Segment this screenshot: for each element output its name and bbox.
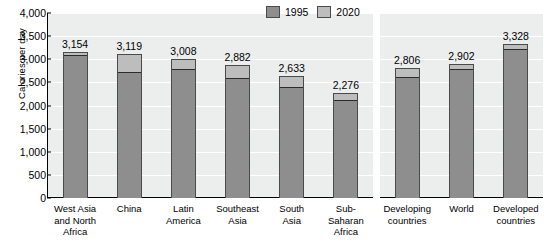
gridline — [48, 106, 373, 107]
bar-value-label: 3,008 — [170, 45, 196, 57]
bar-segment-2020 — [172, 60, 195, 71]
bar-segment-2020 — [226, 66, 249, 80]
legend-item-1995: 1995 — [266, 6, 308, 18]
legend-label-2020: 2020 — [336, 6, 359, 18]
legend-label-1995: 1995 — [285, 6, 308, 18]
bar — [503, 44, 528, 198]
y-axis-tick-mark — [47, 36, 51, 37]
legend-item-2020: 2020 — [317, 6, 359, 18]
bar-segment-2020 — [504, 45, 527, 50]
bar — [333, 93, 358, 198]
bar-segment-2020 — [334, 94, 357, 101]
bar-value-label: 2,633 — [279, 62, 305, 74]
bar-value-label: 3,154 — [62, 38, 88, 50]
calories-per-day-bar-chart: 4,0003,5003,0002,5002,0001,5001,0005000 … — [0, 0, 544, 246]
bar — [117, 54, 142, 198]
bar — [171, 59, 196, 198]
gridline — [48, 59, 373, 60]
bar — [395, 68, 420, 198]
bar — [449, 64, 474, 198]
bar-value-label: 2,882 — [224, 51, 250, 63]
gridline — [48, 82, 373, 83]
x-axis-category-label: Sub- Saharan Africa — [312, 203, 380, 238]
y-axis-tick-label: 500 — [4, 170, 46, 181]
chart-legend: 1995 2020 — [266, 6, 360, 18]
y-axis-tick-mark — [47, 151, 51, 152]
legend-swatch-1995-icon — [266, 6, 280, 18]
bar — [279, 76, 304, 198]
gridline — [48, 36, 373, 37]
bar-value-label: 3,328 — [503, 30, 529, 42]
bar-segment-2020 — [396, 69, 419, 78]
y-axis-tick-mark — [47, 128, 51, 129]
y-axis-title: Calories per day — [16, 0, 27, 129]
y-axis-tick-mark — [47, 59, 51, 60]
y-axis-tick-mark — [47, 82, 51, 83]
bar-value-label: 3,119 — [117, 40, 143, 52]
bar-segment-2020 — [64, 53, 87, 55]
y-axis-tick-label: 1,000 — [4, 147, 46, 158]
bar-value-label: 2,902 — [448, 50, 474, 62]
legend-swatch-2020-icon — [317, 6, 331, 18]
y-axis-tick-mark — [47, 198, 51, 199]
bar — [63, 52, 88, 198]
gridline — [380, 13, 543, 14]
chart-panel-regions — [48, 13, 373, 198]
y-axis-tick-mark — [47, 13, 51, 14]
y-axis-tick-label: 0 — [4, 193, 46, 204]
y-axis-tick-mark — [47, 174, 51, 175]
bar-segment-2020 — [450, 65, 473, 70]
bar-segment-2020 — [280, 77, 303, 88]
bar-segment-2020 — [118, 55, 141, 73]
x-axis-category-label: Developed countries — [482, 203, 544, 226]
bar-value-label: 2,276 — [333, 79, 359, 91]
bar-value-label: 2,806 — [394, 54, 420, 66]
y-axis-tick-mark — [47, 105, 51, 106]
gridline — [48, 152, 373, 153]
bar — [225, 65, 250, 198]
gridline — [48, 175, 373, 176]
gridline — [48, 129, 373, 130]
